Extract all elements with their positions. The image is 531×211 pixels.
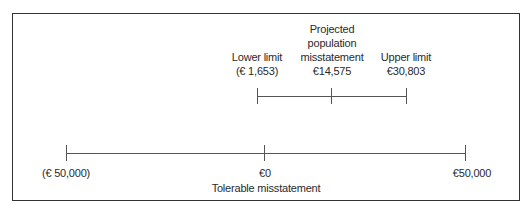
upper-limit-value: €30,803 (381, 64, 431, 78)
projected-title-1: Projected (300, 22, 363, 36)
projected-misstatement-label: Projected population misstatement €14,57… (300, 22, 363, 78)
pos-tolerable-tick (465, 145, 466, 161)
projected-value: €14,575 (300, 64, 363, 78)
zero-label: €0 (259, 166, 271, 180)
misstatement-range-line (257, 96, 407, 97)
lower-limit-tick (257, 88, 258, 104)
projected-tick (331, 88, 332, 104)
lower-limit-label: Lower limit (€ 1,653) (232, 50, 282, 78)
neg-tolerable-label: (€ 50,000) (42, 166, 90, 180)
lower-limit-title: Lower limit (232, 50, 282, 64)
neg-tolerable-tick (66, 145, 67, 161)
zero-tick (264, 145, 265, 161)
upper-limit-title: Upper limit (381, 50, 431, 64)
upper-limit-tick (406, 88, 407, 104)
pos-tolerable-label: €50,000 (453, 166, 491, 180)
projected-title-3: misstatement (300, 50, 363, 64)
upper-limit-label: Upper limit €30,803 (381, 50, 431, 78)
projected-title-2: population (300, 36, 363, 50)
tolerable-misstatement-caption: Tolerable misstatement (212, 181, 321, 195)
lower-limit-value: (€ 1,653) (232, 64, 282, 78)
tolerable-range-line (66, 153, 466, 154)
